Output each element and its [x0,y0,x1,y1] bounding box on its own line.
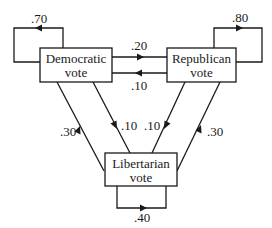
edge-label-dem-lib: .10 [121,118,137,133]
arrowhead-icon [236,25,243,32]
edge-libertarian-to-democratic: .30 [57,82,104,171]
arrowhead-icon [135,70,142,77]
transition-diagram: .70 .80 .40 .20 .10 .30 .10 .10 [0,0,272,228]
node-democratic: Democratic vote [40,48,112,82]
edge-libertarian-self-loop: .40 [117,186,166,225]
node-label-line2: vote [190,65,213,80]
edge-libertarian-to-republican: .30 [177,82,223,171]
edge-label-dem-rep: .20 [131,38,147,53]
edge-label-lib-rep: .30 [207,124,223,139]
node-label-line2: vote [130,170,153,185]
arrowhead-icon [137,54,144,61]
node-label-line1: Libertarian [112,156,170,171]
edge-democratic-to-republican: .20 [112,38,167,61]
node-label-line1: Democratic [46,51,107,66]
edge-label-rep-rep: .80 [232,10,248,25]
edge-label-dem-dem: .70 [31,11,47,26]
node-libertarian: Libertarian vote [105,153,177,186]
edge-label-rep-lib: .10 [144,118,160,133]
node-label-line2: vote [65,65,88,80]
edge-republican-to-libertarian: .10 [144,82,185,153]
node-republican: Republican vote [167,48,236,82]
edge-republican-to-democratic: .10 [112,70,167,94]
edge-label-lib-dem: .30 [60,124,76,139]
edge-label-lib-lib: .40 [134,210,150,225]
edge-label-rep-dem: .10 [131,78,147,93]
node-label-line1: Republican [172,51,232,66]
arrowhead-icon [164,121,171,130]
